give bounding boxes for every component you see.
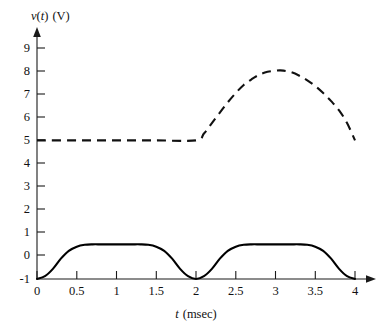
- y-tick-marks: [37, 48, 45, 255]
- series-output-response: [37, 70, 355, 141]
- y-tick-label-0: 0: [24, 248, 30, 262]
- y-tick-label-8: 8: [24, 64, 30, 78]
- x-axis-title-t: t: [175, 307, 179, 321]
- x-tick-label-4: 4: [352, 284, 359, 298]
- y-tick-label-9: 9: [24, 41, 30, 55]
- waveform-figure: v(t)(V) 9 8 7 6 5 4 3 2 1 0 -1: [0, 0, 383, 330]
- y-tick-label-5: 5: [24, 133, 30, 147]
- plot-canvas: v(t)(V) 9 8 7 6 5 4 3 2 1 0 -1: [0, 0, 383, 330]
- y-tick-label-1: 1: [24, 225, 30, 239]
- y-tick-label-7: 7: [24, 87, 30, 101]
- x-tick-label-2-5: 2.5: [228, 284, 244, 298]
- x-tick-label-2: 2: [193, 284, 199, 298]
- x-tick-label-1-5: 1.5: [148, 284, 164, 298]
- x-axis-title-unit: (msec): [183, 307, 217, 321]
- x-tick-label-0-5: 0.5: [69, 284, 85, 298]
- y-axis-arrow-icon: [33, 27, 41, 37]
- x-tick-label-3-5: 3.5: [307, 284, 323, 298]
- y-axis-title-paren-close: ): [44, 9, 48, 23]
- y-axis-title-unit: (V): [52, 9, 69, 23]
- y-tick-label-4: 4: [24, 156, 31, 170]
- x-tick-marks: [37, 271, 355, 279]
- y-tick-label-3: 3: [24, 179, 30, 193]
- x-axis-arrow-icon: [366, 275, 376, 283]
- y-tick-label-6: 6: [24, 110, 30, 124]
- x-tick-label-0: 0: [34, 284, 40, 298]
- y-tick-label-neg1: -1: [20, 272, 30, 286]
- x-tick-label-1: 1: [113, 284, 119, 298]
- y-axis-title: v(t)(V): [31, 9, 70, 23]
- x-tick-label-3: 3: [272, 284, 278, 298]
- x-axis-title: t(msec): [175, 307, 217, 321]
- y-tick-label-2: 2: [24, 202, 30, 216]
